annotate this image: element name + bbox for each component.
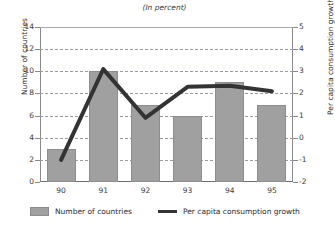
legend-bar-swatch-icon: [30, 207, 49, 216]
legend-item-bars: Number of countries: [30, 207, 132, 216]
right-tick-label-2: 2: [299, 88, 321, 97]
left-axis-title: Number of countries: [20, 0, 29, 117]
x-tick-label-90: 90: [49, 186, 73, 195]
x-tick-label-95: 95: [260, 186, 284, 195]
right-tick-mark: [293, 71, 298, 72]
chart-legend: Number of countries Per capita consumpti…: [0, 203, 329, 223]
left-tick-mark: [35, 182, 40, 183]
right-tick-label-4: 4: [299, 44, 321, 53]
legend-line-swatch-icon: [158, 210, 177, 213]
right-tick-label-5: 5: [299, 22, 321, 31]
right-tick-mark: [293, 160, 298, 161]
left-tick-mark: [35, 116, 40, 117]
right-tick-mark: [293, 182, 298, 183]
left-tick-label-2: 2: [8, 155, 34, 164]
right-tick-mark: [293, 138, 298, 139]
legend-label-bars: Number of countries: [55, 207, 132, 216]
x-tick-label-94: 94: [218, 186, 242, 195]
right-tick-mark: [293, 49, 298, 50]
x-tick-label-93: 93: [176, 186, 200, 195]
left-tick-mark: [35, 138, 40, 139]
right-tick-mark: [293, 116, 298, 117]
x-tick-label-92: 92: [133, 186, 157, 195]
line-series: [40, 27, 293, 182]
legend-label-line: Per capita consumption growth: [183, 207, 300, 216]
right-tick-label--2: -2: [299, 177, 321, 186]
left-tick-mark: [35, 27, 40, 28]
x-tick-label-91: 91: [91, 186, 115, 195]
legend-item-line: Per capita consumption growth: [158, 207, 300, 216]
right-tick-mark: [293, 27, 298, 28]
left-tick-label-4: 4: [8, 133, 34, 142]
left-tick-mark: [35, 160, 40, 161]
left-tick-label-0: 0: [8, 177, 34, 186]
right-tick-label--1: -1: [299, 155, 321, 164]
right-axis-title: Per capita consumption growth: [326, 0, 335, 137]
right-tick-label-0: 0: [299, 133, 321, 142]
right-tick-mark: [293, 93, 298, 94]
right-tick-label-3: 3: [299, 66, 321, 75]
plot-area: [40, 27, 293, 182]
left-tick-mark: [35, 49, 40, 50]
right-tick-label-1: 1: [299, 111, 321, 120]
left-tick-mark: [35, 93, 40, 94]
left-tick-mark: [35, 71, 40, 72]
chart-title: Number of countries: [0, 0, 329, 2]
chart-subtitle: (In percent): [0, 3, 329, 12]
